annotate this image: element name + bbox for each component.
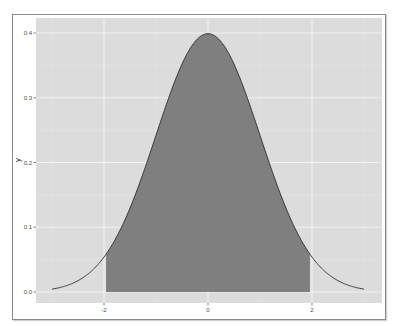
y-tick-label: 0.3 [24,95,33,101]
x-tick-label: 2 [310,307,314,313]
y-tick-label: 0.2 [24,160,33,166]
y-axis-title: y [13,158,22,162]
x-tick-label: 0 [206,307,210,313]
y-tick-label: 0.1 [24,224,33,230]
density-chart: 0.00.10.20.30.4 -202 y [0,0,395,326]
y-tick-label: 0.4 [24,30,33,36]
y-axis: 0.00.10.20.30.4 [24,30,36,295]
y-tick-label: 0.0 [24,289,33,295]
x-tick-label: -2 [101,307,107,313]
x-axis: -202 [101,303,314,313]
